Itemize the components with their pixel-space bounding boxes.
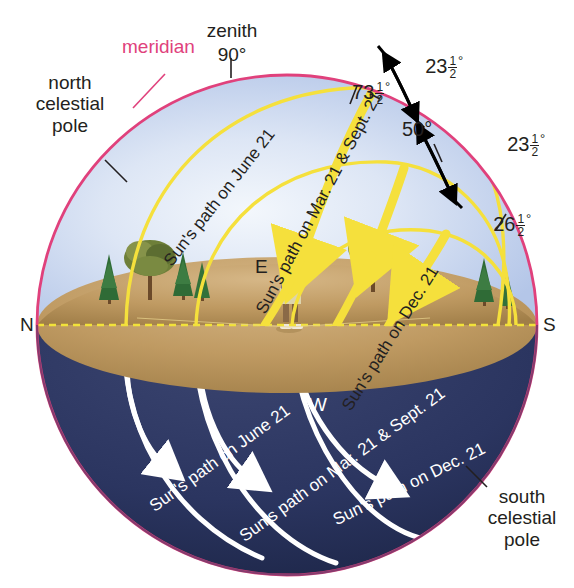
winter-altitude-fraction: 12 — [516, 213, 525, 238]
west-point-label: W — [309, 394, 327, 415]
zenith-altitude-label: 90° — [202, 44, 262, 65]
north-point-label: N — [20, 314, 34, 335]
ncp-text: north celestial pole — [36, 72, 105, 136]
tilt-lower-degree: ° — [540, 131, 545, 146]
zenith-label: zenith — [196, 20, 268, 41]
winter-altitude-label: 2612° — [482, 190, 531, 238]
winter-altitude-degree: ° — [526, 211, 531, 226]
south-point-label: S — [543, 314, 556, 335]
meridian-leader — [133, 74, 165, 108]
tilt-lower-label: 2312° — [496, 110, 545, 158]
tilt-upper-label: 2312° — [414, 32, 463, 80]
scp-text: south celestial pole — [488, 486, 557, 550]
tilt-lower-fraction: 12 — [530, 133, 539, 158]
winter-altitude-number: 26 — [493, 213, 515, 235]
tick-june — [378, 46, 388, 58]
tilt-upper-number: 23 — [425, 55, 447, 77]
winter-altitude-denominator: 2 — [516, 226, 525, 238]
celestial-sphere-diagram: meridian zenith 90° north celestial pole… — [0, 0, 574, 588]
meridian-label: meridian — [122, 36, 195, 57]
tilt-upper-denominator: 2 — [448, 68, 457, 80]
tilt-lower-denominator: 2 — [530, 146, 539, 158]
east-point-label: E — [255, 256, 268, 277]
tilt-upper-fraction: 12 — [448, 55, 457, 80]
tilt-upper-degree: ° — [458, 53, 463, 68]
equinox-altitude-label: 50° — [402, 118, 432, 140]
north-celestial-pole-label: north celestial pole — [16, 72, 124, 136]
tilt-lower-number: 23 — [507, 133, 529, 155]
summer-altitude-degree: ° — [385, 79, 390, 94]
south-celestial-pole-label: south celestial pole — [472, 486, 572, 550]
